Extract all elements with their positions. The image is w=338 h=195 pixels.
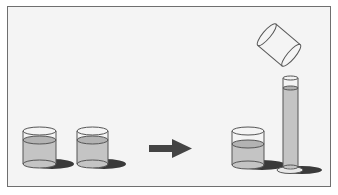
beaker-2 bbox=[77, 127, 126, 169]
beaker-1-liquid-surface bbox=[23, 136, 56, 144]
lab-procedure-diagram bbox=[0, 0, 338, 195]
beaker-3-liquid-surface bbox=[232, 140, 264, 148]
tilted-beaker-base bbox=[255, 21, 279, 48]
beaker-3-rim bbox=[232, 127, 264, 135]
cylinder-rim bbox=[283, 76, 298, 80]
right-arrow-icon bbox=[149, 139, 192, 158]
beaker-3 bbox=[232, 127, 286, 170]
cylinder-liquid bbox=[283, 88, 298, 168]
beaker-1-rim bbox=[23, 127, 56, 135]
beaker-1 bbox=[23, 127, 74, 169]
graduated-cylinder bbox=[277, 76, 322, 174]
tilted-beaker-rim bbox=[279, 42, 303, 69]
beaker-2-liquid-surface bbox=[77, 136, 108, 144]
beaker-2-rim bbox=[77, 127, 108, 135]
tilted-beaker bbox=[255, 21, 304, 68]
